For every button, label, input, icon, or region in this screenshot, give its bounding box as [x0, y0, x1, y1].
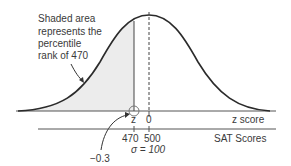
- z-value-callout: −0.3: [90, 153, 110, 164]
- zero-label: 0: [146, 114, 152, 125]
- tick-label-470: 470: [122, 133, 139, 144]
- normal-distribution-diagram: Shaded area represents the percentile ra…: [0, 0, 291, 166]
- annotation-line-1: Shaded area: [38, 13, 96, 24]
- sigma-label: σ = 100: [131, 144, 166, 155]
- sat-axis-label: SAT Scores: [214, 133, 266, 144]
- z-marker-label: z: [131, 114, 136, 125]
- annotation-line-2: represents the: [38, 26, 102, 37]
- annotation-line-4: rank of 470: [38, 50, 88, 61]
- tick-label-500: 500: [144, 133, 161, 144]
- z-score-axis-label: z score: [232, 114, 265, 125]
- annotation-line-3: percentile: [38, 38, 82, 49]
